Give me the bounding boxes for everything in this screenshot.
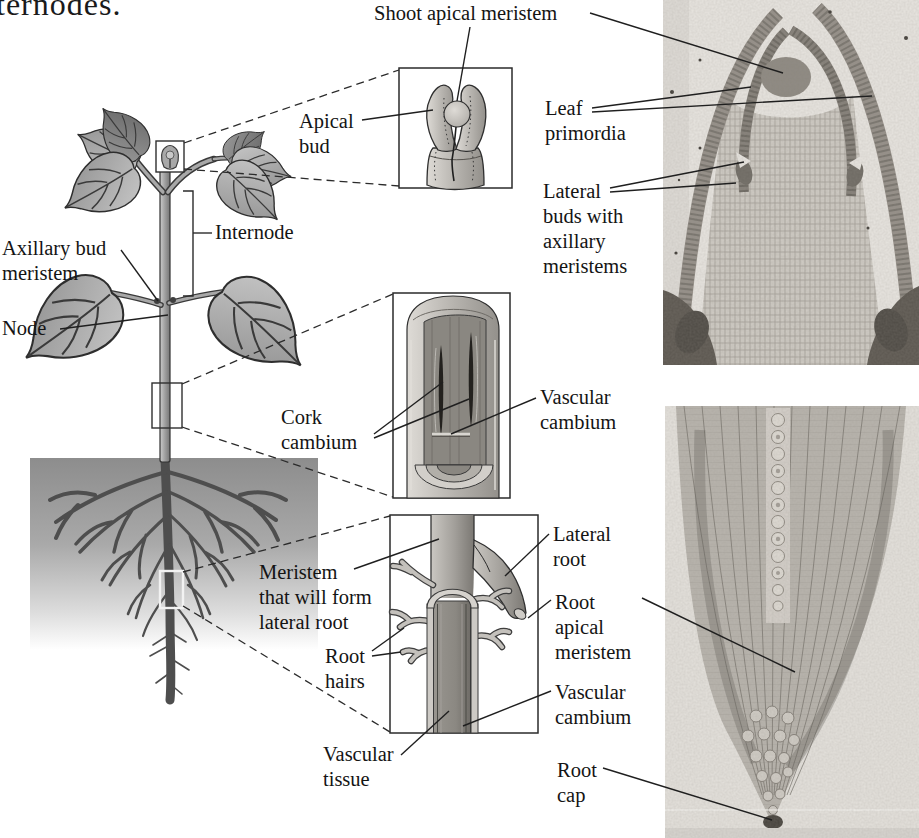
figure-illustration: [0, 0, 919, 838]
internode-bracket: [183, 191, 212, 296]
root-inset: [390, 515, 538, 733]
label-lateral-buds-with-axillary-meristems: Lateral buds with axillary meristems: [543, 179, 627, 279]
label-internode: Internode: [215, 220, 294, 245]
cropped-paragraph-text: ternodes.: [0, 0, 121, 23]
label-vascular-cambium-root: Vascular cambium: [555, 680, 631, 730]
vascular-tissue-core: [434, 601, 471, 733]
stem-cambium-inset: [393, 293, 510, 498]
label-lateral-root: Lateral root: [553, 522, 611, 572]
label-root-hairs: Root hairs: [325, 644, 365, 694]
label-root-apical-meristem: Root apical meristem: [555, 590, 631, 665]
root-upper-meristem-zone: [431, 515, 474, 598]
label-meristem-that-will-form-lateral-root: Meristem that will form lateral root: [259, 560, 372, 635]
label-axillary-bud-meristem: Axillary bud meristem: [2, 236, 106, 286]
root-tip-micrograph: [665, 406, 919, 838]
label-cork-cambium: Cork cambium: [281, 405, 357, 455]
label-leaf-primordia: Leaf primordia: [545, 96, 626, 146]
mini-apical-bud: [162, 146, 179, 170]
apical-bud-inset: [399, 68, 512, 190]
inner-cylinder: [424, 315, 486, 468]
shoot-tip-micrograph: [663, 0, 919, 365]
textbook-figure-plant-meristems: ternodes. Shoot apical meristem Apical b…: [0, 0, 919, 838]
shoot-apical-meristem-dome: [444, 101, 470, 127]
label-vascular-cambium-stem: Vascular cambium: [540, 385, 616, 435]
label-shoot-apical-meristem: Shoot apical meristem: [374, 1, 557, 26]
axillary-bud: [170, 297, 176, 303]
label-apical-bud: Apical bud: [299, 109, 354, 159]
label-root-cap: Root cap: [557, 758, 597, 808]
label-vascular-tissue: Vascular tissue: [323, 742, 394, 792]
label-node: Node: [2, 316, 46, 341]
